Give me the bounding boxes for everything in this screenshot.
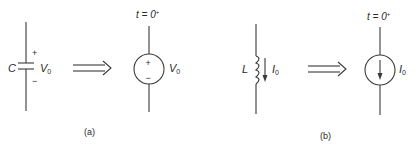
transform-arrow-b: [308, 62, 346, 76]
capacitor-plus-sign: +: [32, 48, 37, 58]
current-source: t = 0+ I0: [365, 11, 406, 115]
inductor-label: L: [242, 63, 248, 75]
panel-a: C + − V0 t = 0+ + − V0 (a): [8, 9, 180, 137]
inductor-current-label: I0: [272, 63, 279, 76]
transform-arrow-a: [73, 61, 111, 75]
time-label-a: t = 0+: [136, 9, 160, 20]
capacitor-label: C: [8, 62, 16, 74]
inductor: L I0: [242, 24, 279, 114]
capacitor-voltage-label: V0: [40, 62, 51, 75]
source-voltage-label: V0: [169, 62, 180, 75]
current-arrow-icon: [263, 75, 268, 82]
capacitor-minus-sign: −: [32, 76, 37, 86]
caption-a: (a): [84, 127, 95, 137]
source-current-arrow-icon: [378, 73, 383, 80]
inductor-coil: [256, 56, 259, 84]
panel-b: L I0 t = 0+ I0 (b): [242, 11, 406, 141]
time-label-b: t = 0+: [367, 11, 391, 22]
capacitor: C + − V0: [8, 22, 51, 111]
source-plus-sign: +: [146, 58, 151, 68]
source-minus-sign: −: [146, 73, 151, 83]
caption-b: (b): [320, 131, 331, 141]
source-current-label: I0: [399, 63, 406, 76]
voltage-source: t = 0+ + − V0: [134, 9, 180, 112]
circuit-diagram: C + − V0 t = 0+ + − V0 (a): [0, 0, 417, 150]
